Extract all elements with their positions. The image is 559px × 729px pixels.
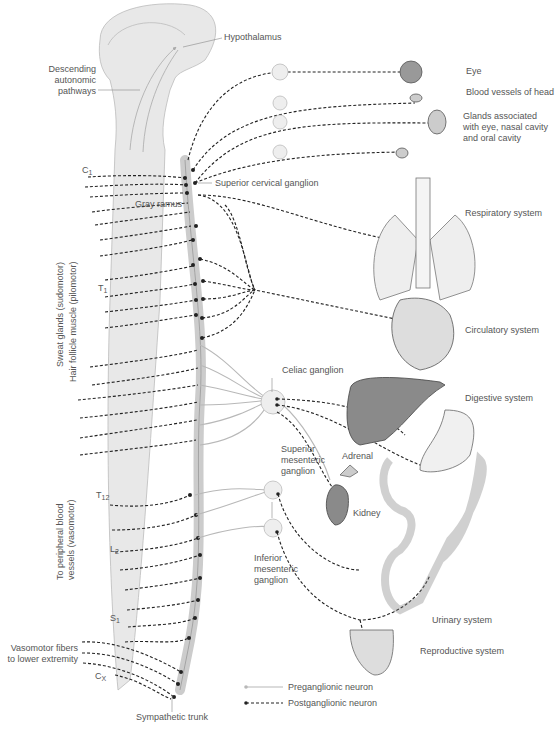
legend-preganglionic: Preganglionic neuron xyxy=(288,682,373,693)
target-glands-1: Glands associated xyxy=(463,111,537,122)
label-c1: C1 xyxy=(82,165,92,178)
label-celiac-ganglion: Celiac ganglion xyxy=(282,365,344,376)
target-eye: Eye xyxy=(466,66,482,77)
label-t1: T1 xyxy=(98,283,107,296)
stomach-organ xyxy=(420,410,474,472)
celiac-ganglion xyxy=(261,390,285,414)
oral-gland-organ xyxy=(396,148,408,158)
label-descending-3: pathways xyxy=(40,86,96,97)
liver-organ xyxy=(347,377,445,445)
label-descending-1: Descending xyxy=(40,64,96,75)
label-superior-cervical-ganglion: Superior cervical ganglion xyxy=(215,178,319,189)
target-blood-vessels-head: Blood vessels of head xyxy=(466,87,554,98)
label-inf-mes-2: mesenteric xyxy=(254,564,298,575)
target-urinary: Urinary system xyxy=(432,615,492,626)
eye-organ xyxy=(400,61,422,83)
label-gray-ramus: Gray ramus xyxy=(135,199,182,210)
label-sup-mes-2: mesenteric xyxy=(281,455,325,466)
heart-organ xyxy=(392,298,454,370)
label-sweat-glands: Sweat glands (sudomotor) xyxy=(55,262,66,367)
target-glands-3: and oral cavity xyxy=(463,133,521,144)
label-adrenal: Adrenal xyxy=(342,451,373,462)
label-inf-mes-3: ganglion xyxy=(254,575,288,586)
bladder-organ xyxy=(350,630,393,675)
target-digestive: Digestive system xyxy=(465,393,533,404)
label-sympathetic-trunk: Sympathetic trunk xyxy=(136,712,208,723)
label-s1: S1 xyxy=(110,613,120,626)
trachea xyxy=(416,178,430,288)
label-peripheral-1: To peripheral blood xyxy=(55,503,66,580)
label-cx: CX xyxy=(95,671,106,684)
target-reproductive: Reproductive system xyxy=(420,646,504,657)
label-hair-follicle: Hair follicle muscle (pilomotor) xyxy=(68,261,79,382)
label-t12: T12 xyxy=(96,490,109,503)
legend-postganglionic: Postganglionic neuron xyxy=(288,698,377,709)
superior-mesenteric-ganglion xyxy=(264,481,282,499)
kidney-organ xyxy=(326,485,348,525)
inferior-mesenteric-ganglion xyxy=(264,519,282,537)
label-vasomotor-1: Vasomotor fibers xyxy=(0,643,78,654)
label-peripheral-2: vessels (vasomotor) xyxy=(66,499,77,580)
target-respiratory: Respiratory system xyxy=(465,208,542,219)
target-glands-2: with eye, nasal cavity xyxy=(463,122,548,133)
label-inf-mes-1: Inferior xyxy=(254,553,282,564)
label-hypothalamus: Hypothalamus xyxy=(224,32,282,43)
target-circulatory: Circulatory system xyxy=(465,325,539,336)
label-descending-2: autonomic xyxy=(40,75,96,86)
intestines-organ xyxy=(383,460,482,610)
label-sup-mes-3: ganglion xyxy=(281,466,315,477)
label-sup-mes-1: Superior xyxy=(281,444,315,455)
glands-organ xyxy=(428,110,446,134)
head-vessel-organ xyxy=(410,94,422,102)
sympathetic-trunk xyxy=(180,160,201,690)
adrenal-organ xyxy=(340,465,358,477)
label-l2: L2 xyxy=(110,544,119,557)
label-kidney: Kidney xyxy=(353,508,381,519)
label-vasomotor-2: to lower extremity xyxy=(0,654,78,665)
